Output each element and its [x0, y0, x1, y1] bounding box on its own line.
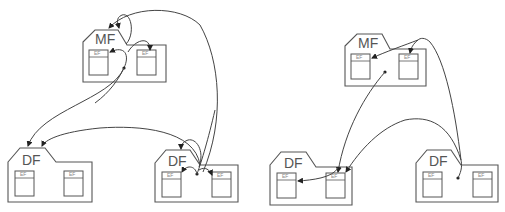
- left-df-left-ef-right: EF: [64, 171, 83, 196]
- diagram-canvas: MF EF EF DF EF EF DF: [0, 0, 505, 212]
- right-mf-label: MF: [358, 35, 378, 51]
- svg-text:EF: EF: [167, 172, 173, 178]
- right-df-right-node: DF EF EF: [416, 150, 498, 202]
- left-df-right-node: DF EF EF: [155, 150, 238, 202]
- left-df-right-ef-right: EF: [212, 172, 231, 197]
- right-df-right-label: DF: [429, 153, 448, 169]
- left-mf-label: MF: [95, 31, 115, 47]
- svg-text:EF: EF: [20, 171, 26, 177]
- left-df-right-label: DF: [168, 153, 187, 169]
- right-df-left-ef-right: EF: [326, 173, 345, 198]
- svg-text:EF: EF: [356, 54, 362, 60]
- svg-text:EF: EF: [94, 50, 100, 56]
- svg-text:EF: EF: [142, 50, 148, 56]
- svg-text:EF: EF: [282, 173, 288, 179]
- left-df-right-ef-left: EF: [162, 172, 181, 197]
- svg-text:EF: EF: [478, 172, 484, 178]
- right-df-left-label: DF: [284, 155, 303, 171]
- svg-text:EF: EF: [428, 172, 434, 178]
- left-df-left-node: DF EF EF: [8, 148, 92, 202]
- left-df-left-ef-left: EF: [15, 171, 34, 196]
- right-df-right-ef-right: EF: [473, 172, 492, 197]
- right-mf-ef-left: EF: [351, 54, 370, 79]
- svg-text:EF: EF: [404, 54, 410, 60]
- right-df-right-ef-left: EF: [423, 172, 442, 197]
- left-mf-node: MF EF EF: [83, 30, 166, 82]
- left-df-left-label: DF: [22, 152, 41, 168]
- right-df-left-ef-left: EF: [277, 173, 296, 198]
- svg-text:EF: EF: [69, 171, 75, 177]
- right-df-left-node: DF EF EF: [270, 152, 352, 205]
- right-mf-ef-right: EF: [399, 54, 418, 79]
- left-mf-ef-left: EF: [89, 50, 108, 75]
- svg-text:EF: EF: [217, 172, 223, 178]
- left-mf-ef-right: EF: [137, 50, 156, 75]
